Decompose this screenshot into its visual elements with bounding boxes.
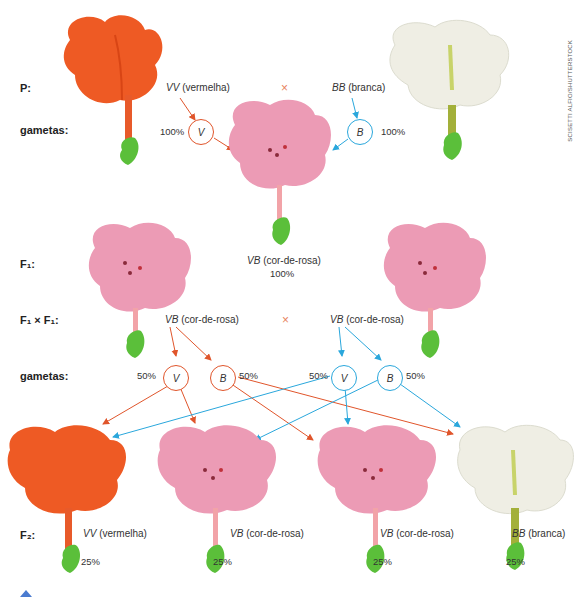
p-right-genotype: BB (branca)	[332, 82, 385, 93]
gamete-p-right-pct: 100%	[381, 126, 405, 137]
f1-cross-right-genotype: VB (cor-de-rosa)	[330, 314, 404, 325]
p-left-genotype: VV (vermelha)	[166, 82, 230, 93]
gamete-p-left-pct: 100%	[160, 126, 184, 137]
f2-2-pct: 25%	[213, 556, 232, 567]
label-p: P:	[20, 82, 31, 94]
f2-4-genotype: BB (branca)	[512, 528, 565, 539]
red-flower-p	[60, 10, 170, 170]
red-flower-f2	[5, 420, 130, 585]
gamete-f1-3: V	[331, 365, 357, 391]
f1-cross-symbol: ×	[282, 313, 289, 327]
pink-flower-f1-center	[225, 95, 335, 255]
f1-genotype: VB (cor-de-rosa)	[247, 255, 321, 266]
gamete-f1-1: V	[163, 365, 189, 391]
label-gametes-f1: gametas:	[20, 370, 68, 382]
gamete-p-right: B	[347, 119, 373, 145]
gamete-f1-2: B	[210, 365, 236, 391]
gamete-f1-2-pct: 50%	[239, 370, 258, 381]
caption-marker-icon	[20, 590, 32, 597]
gamete-f1-1-pct: 50%	[137, 370, 156, 381]
pink-flower-f1-right	[380, 218, 490, 368]
gamete-f1-3-pct: 50%	[309, 370, 328, 381]
gamete-f1-4-pct: 50%	[406, 370, 425, 381]
pink-flower-f1-left	[85, 218, 195, 368]
f2-3-pct: 25%	[373, 556, 392, 567]
f1-cross-left-genotype: VB (cor-de-rosa)	[165, 314, 239, 325]
label-f1-cross: F₁ × F₁:	[20, 314, 59, 326]
photo-credit: SCISETTI ALFIO/SHUTTERSTOCK	[567, 40, 573, 142]
p-cross-symbol: ×	[281, 81, 288, 95]
f2-2-genotype: VB (cor-de-rosa)	[230, 528, 304, 539]
f2-4-pct: 25%	[506, 556, 525, 567]
label-f1: F₁:	[20, 258, 35, 270]
label-f2: F₂:	[20, 529, 35, 541]
gamete-f1-4: B	[377, 365, 403, 391]
label-gametes-p: gametas:	[20, 124, 68, 136]
f2-3-genotype: VB (cor-de-rosa)	[380, 528, 454, 539]
f2-1-pct: 25%	[81, 556, 100, 567]
white-flower-p	[380, 15, 520, 165]
gamete-p-left: V	[188, 119, 214, 145]
f1-pct: 100%	[270, 268, 294, 279]
f2-1-genotype: VV (vermelha)	[83, 528, 147, 539]
